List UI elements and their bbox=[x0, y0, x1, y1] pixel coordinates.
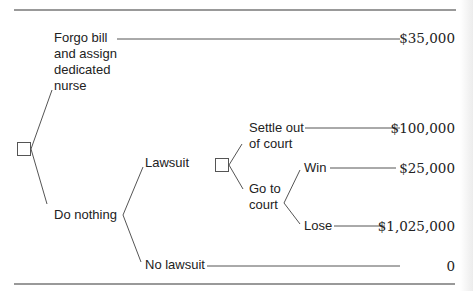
outcome-no-lawsuit-value: 0 bbox=[446, 258, 455, 274]
event-no-lawsuit-label: No lawsuit bbox=[145, 257, 205, 273]
branch-forgo bbox=[31, 90, 52, 149]
branch-do-nothing bbox=[31, 149, 47, 204]
branch-lawsuit bbox=[123, 167, 143, 215]
decision-node-root bbox=[18, 143, 31, 156]
event-lose-label: Lose bbox=[304, 218, 332, 234]
decision-node-lawsuit bbox=[216, 159, 229, 172]
option-do-nothing-label: Do nothing bbox=[54, 207, 117, 223]
option-settle-label: Settle out of court bbox=[249, 120, 304, 152]
option-go-to-court-label: Go to court bbox=[249, 181, 281, 213]
branch-no-lawsuit bbox=[123, 215, 141, 262]
outcome-win-value: $25,000 bbox=[399, 160, 455, 176]
branch-lose bbox=[284, 203, 300, 224]
outcome-lose-value: $1,025,000 bbox=[378, 218, 455, 234]
option-forgo-label: Forgo bill and assign dedicated nurse bbox=[54, 30, 117, 94]
branch-go-to-court bbox=[229, 165, 243, 189]
event-win-label: Win bbox=[304, 160, 326, 176]
event-lawsuit-label: Lawsuit bbox=[145, 155, 189, 171]
branch-win bbox=[284, 170, 300, 203]
outcome-settle-value: $100,000 bbox=[391, 120, 455, 136]
branch-settle bbox=[229, 144, 242, 165]
outcome-forgo-value: $35,000 bbox=[399, 30, 455, 46]
